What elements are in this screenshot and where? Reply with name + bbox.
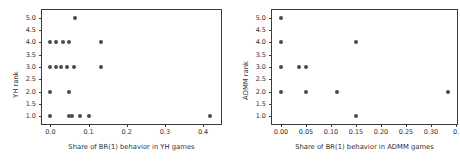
data-point bbox=[59, 65, 63, 69]
data-point bbox=[48, 40, 52, 44]
x-tick-label-admm: 0.15 bbox=[349, 128, 363, 136]
y-tick-label-admm: 3.5 bbox=[256, 51, 266, 59]
data-point bbox=[61, 40, 65, 44]
y-tick-label-yh: 5.0 bbox=[26, 14, 36, 22]
x-tick-label-admm: 0.00 bbox=[274, 128, 288, 136]
y-tick-yh bbox=[39, 79, 42, 80]
data-point bbox=[297, 65, 301, 69]
data-point bbox=[48, 90, 52, 94]
data-point bbox=[304, 90, 308, 94]
data-point bbox=[73, 16, 77, 20]
x-tick-label-admm: 0.30 bbox=[424, 128, 438, 136]
y-tick-admm bbox=[269, 55, 272, 56]
data-point bbox=[335, 90, 339, 94]
x-tick-admm bbox=[431, 124, 432, 127]
x-tick-yh bbox=[127, 124, 128, 127]
x-tick-label-admm: 0.10 bbox=[324, 128, 338, 136]
x-tick-label-yh: 0.4 bbox=[198, 128, 208, 136]
data-point bbox=[279, 65, 283, 69]
x-tick-yh bbox=[50, 124, 51, 127]
data-point bbox=[354, 114, 358, 118]
y-tick-admm bbox=[269, 104, 272, 105]
data-point bbox=[78, 114, 82, 118]
x-tick-label-admm: 0.25 bbox=[399, 128, 413, 136]
panel-yh: 0.00.10.20.30.41.01.52.02.53.03.54.04.55… bbox=[0, 0, 230, 165]
data-point bbox=[99, 65, 103, 69]
data-point bbox=[70, 114, 74, 118]
data-point bbox=[304, 65, 308, 69]
x-tick-label-yh: 0.0 bbox=[45, 128, 55, 136]
x-tick-admm bbox=[456, 124, 457, 127]
x-tick-yh bbox=[203, 124, 204, 127]
x-tick-admm bbox=[356, 124, 357, 127]
y-tick-yh bbox=[39, 55, 42, 56]
data-point bbox=[67, 90, 71, 94]
x-tick-admm bbox=[381, 124, 382, 127]
y-tick-yh bbox=[39, 92, 42, 93]
data-point bbox=[208, 114, 212, 118]
data-point bbox=[279, 90, 283, 94]
y-tick-label-yh: 1.0 bbox=[26, 112, 36, 120]
y-tick-yh bbox=[39, 42, 42, 43]
y-tick-admm bbox=[269, 18, 272, 19]
x-tick-admm bbox=[331, 124, 332, 127]
x-tick-admm bbox=[306, 124, 307, 127]
y-tick-label-admm: 2.0 bbox=[256, 88, 266, 96]
x-tick-admm bbox=[406, 124, 407, 127]
x-tick-label-admm: 0.05 bbox=[299, 128, 313, 136]
x-tick-admm bbox=[281, 124, 282, 127]
x-tick-yh bbox=[165, 124, 166, 127]
data-point bbox=[87, 114, 91, 118]
y-axis-title-yh: YH rank bbox=[12, 71, 20, 98]
y-tick-label-admm: 3.0 bbox=[256, 63, 266, 71]
y-tick-label-yh: 4.0 bbox=[26, 38, 36, 46]
y-tick-yh bbox=[39, 116, 42, 117]
y-tick-admm bbox=[269, 67, 272, 68]
y-tick-admm bbox=[269, 116, 272, 117]
plot-area-admm: 0.000.050.100.150.200.250.300.1.01.52.02… bbox=[271, 9, 458, 125]
y-tick-yh bbox=[39, 67, 42, 68]
plot-area-yh: 0.00.10.20.30.41.01.52.02.53.03.54.04.55… bbox=[41, 9, 222, 125]
data-point bbox=[54, 65, 58, 69]
y-tick-yh bbox=[39, 18, 42, 19]
y-tick-label-yh: 2.5 bbox=[26, 75, 36, 83]
data-point bbox=[279, 16, 283, 20]
y-tick-label-admm: 1.5 bbox=[256, 100, 266, 108]
data-point bbox=[354, 40, 358, 44]
y-tick-label-admm: 5.0 bbox=[256, 14, 266, 22]
y-tick-label-admm: 2.5 bbox=[256, 75, 266, 83]
data-point bbox=[446, 90, 450, 94]
data-point bbox=[67, 40, 71, 44]
scatter-figure: 0.00.10.20.30.41.01.52.02.53.03.54.04.55… bbox=[0, 0, 460, 165]
y-tick-admm bbox=[269, 79, 272, 80]
x-axis-title-yh: Share of BR(1) behavior in YH games bbox=[41, 143, 222, 151]
y-tick-label-admm: 4.0 bbox=[256, 38, 266, 46]
data-point bbox=[48, 114, 52, 118]
data-point bbox=[54, 40, 58, 44]
data-point bbox=[279, 40, 283, 44]
y-tick-admm bbox=[269, 30, 272, 31]
x-tick-label-admm: 0.20 bbox=[374, 128, 388, 136]
y-tick-label-admm: 1.0 bbox=[256, 112, 266, 120]
y-tick-yh bbox=[39, 30, 42, 31]
panel-admm: 0.000.050.100.150.200.250.300.1.01.52.02… bbox=[230, 0, 460, 165]
y-axis-title-admm: ADMM rank bbox=[242, 61, 250, 100]
x-tick-label-admm: 0. bbox=[453, 128, 459, 136]
y-tick-yh bbox=[39, 104, 42, 105]
x-tick-label-yh: 0.3 bbox=[160, 128, 170, 136]
y-tick-admm bbox=[269, 92, 272, 93]
y-tick-label-yh: 3.0 bbox=[26, 63, 36, 71]
y-tick-label-admm: 4.5 bbox=[256, 26, 266, 34]
y-tick-admm bbox=[269, 42, 272, 43]
x-tick-label-yh: 0.2 bbox=[122, 128, 132, 136]
y-tick-label-yh: 1.5 bbox=[26, 100, 36, 108]
y-tick-label-yh: 3.5 bbox=[26, 51, 36, 59]
x-axis-title-admm: Share of BR(1) behavior in ADMM games bbox=[271, 143, 458, 151]
data-point bbox=[48, 65, 52, 69]
x-tick-label-yh: 0.1 bbox=[83, 128, 93, 136]
data-point bbox=[65, 65, 69, 69]
x-tick-yh bbox=[89, 124, 90, 127]
data-point bbox=[99, 40, 103, 44]
data-point bbox=[72, 65, 76, 69]
y-tick-label-yh: 2.0 bbox=[26, 88, 36, 96]
